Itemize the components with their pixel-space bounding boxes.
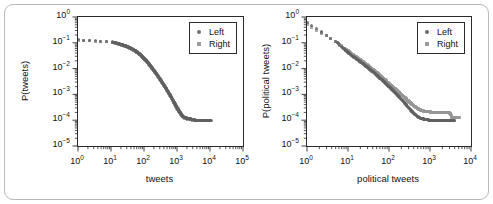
x-tick-label: 100: [70, 156, 84, 166]
x-axis-title-right: political tweets: [357, 173, 419, 184]
square-marker-icon: [422, 42, 432, 46]
y-axis-title-right: P(political tweets): [260, 43, 271, 117]
y-tick-label: 100: [56, 10, 70, 20]
legend-right: Left Right: [417, 22, 465, 54]
figure-frame: P(tweets) 10010−110−210−310−410−5 100101…: [4, 4, 489, 200]
x-tick-label: 104: [463, 156, 477, 166]
chart-panel-tweets: P(tweets) 10010−110−210−310−410−5 100101…: [5, 5, 252, 201]
y-tick-label: 10−2: [282, 62, 299, 72]
legend-item-right-series: Right: [422, 38, 458, 50]
x-tick-label: 101: [103, 156, 117, 166]
y-tick-label: 10−5: [53, 139, 70, 149]
legend-label-left: Left: [209, 26, 224, 38]
x-axis-title-left: tweets: [146, 173, 173, 184]
x-tick-label: 103: [422, 156, 436, 166]
circle-marker-icon: [194, 30, 204, 34]
data-point: [320, 30, 323, 33]
square-marker-icon: [194, 42, 204, 46]
y-tick-label: 10−5: [282, 139, 299, 149]
legend-label-left: Left: [437, 26, 452, 38]
x-tick-label: 103: [169, 156, 183, 166]
y-tick-label: 10−3: [282, 87, 299, 97]
legend-item-left-series: Left: [422, 26, 458, 38]
y-tick-label: 10−2: [53, 62, 70, 72]
x-tick-label: 104: [202, 156, 216, 166]
x-tick-label: 105: [235, 156, 249, 166]
plot-area-political-tweets: Left Right: [306, 16, 472, 147]
legend-left: Left Right: [189, 22, 237, 54]
legend-item-left-series: Left: [194, 26, 230, 38]
y-tick-label: 10−4: [282, 113, 299, 123]
x-tick-label: 102: [136, 156, 150, 166]
data-point: [325, 34, 328, 37]
legend-label-right: Right: [209, 38, 230, 50]
data-point: [458, 116, 461, 119]
circle-marker-icon: [422, 30, 432, 34]
x-tick-label: 102: [381, 156, 395, 166]
x-tick-label: 101: [340, 156, 354, 166]
y-tick-label: 10−1: [53, 36, 70, 46]
y-tick-label: 10−3: [53, 87, 70, 97]
y-tick-label: 10−4: [53, 113, 70, 123]
x-tick-label: 100: [299, 156, 313, 166]
y-axis-title-left: P(tweets): [19, 60, 30, 100]
y-tick-label: 10−1: [282, 36, 299, 46]
plot-area-tweets: Left Right: [77, 16, 244, 147]
chart-panel-political-tweets: P(political tweets) 10010−110−210−310−41…: [248, 5, 490, 201]
legend-item-right-series: Right: [194, 38, 230, 50]
data-point: [453, 119, 456, 122]
data-point: [209, 119, 212, 122]
legend-label-right: Right: [437, 38, 458, 50]
y-tick-label: 100: [285, 10, 299, 20]
